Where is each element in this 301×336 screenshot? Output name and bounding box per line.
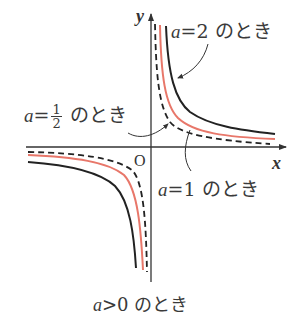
pointer-ahalf [128,124,168,136]
label-a1-value: 1 [183,178,195,200]
label-ahalf-eq: = [34,104,50,126]
label-a2-suffix: のとき [215,20,272,42]
x-axis-label: x [272,153,281,174]
label-a1: a=1 のとき [158,180,259,199]
pointer-a2 [178,44,208,78]
label-a1-eq: = [168,178,184,200]
label-a1-var: a [158,179,168,200]
caption: a>0 のとき [93,296,188,314]
hyperbola-diagram [0,0,301,336]
curve-a2-q1 [166,26,275,134]
caption-var: a [93,295,102,315]
label-a-half: a=12 のとき [24,103,127,130]
fraction-numerator: 1 [51,103,61,117]
pointer-a1 [185,130,191,171]
label-a1-suffix: のとき [202,178,259,200]
label-a2-eq: = [181,20,197,42]
curve-a1-q1 [160,25,275,139]
curve-a1-q3 [28,155,143,270]
fraction-one-half: 12 [51,103,61,130]
y-axis-label: y [136,6,144,27]
curve-a-half-q1 [155,24,270,144]
label-a2: a=2 のとき [171,22,272,41]
label-a2-value: 2 [196,20,208,42]
caption-rel: >0 [102,294,129,315]
label-ahalf-var: a [24,105,34,126]
curve-a2-q3 [28,162,136,268]
fraction-denominator: 2 [51,117,61,130]
caption-suffix: のとき [134,294,188,315]
label-a2-var: a [171,21,181,42]
origin-label: O [134,152,146,170]
label-ahalf-suffix: のとき [70,104,127,126]
